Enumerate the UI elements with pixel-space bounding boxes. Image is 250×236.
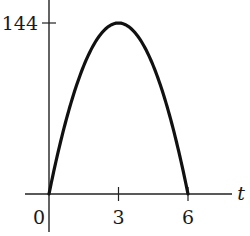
axes [25, 0, 232, 232]
parabola-chart: 036144t [0, 0, 250, 236]
x-tick-label-0: 0 [33, 206, 45, 228]
x-tick-label-6: 6 [182, 206, 194, 228]
axis-ticks [42, 23, 188, 201]
x-axis-label: t [237, 182, 245, 204]
y-tick-label-144: 144 [2, 12, 38, 34]
parabola-curve [49, 23, 188, 194]
x-tick-label-3: 3 [112, 206, 124, 228]
axis-labels: 036144t [2, 12, 245, 228]
